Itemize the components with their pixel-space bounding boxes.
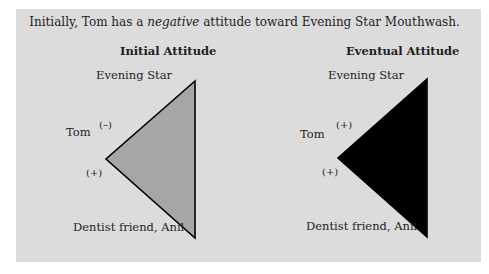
eventual-lower-sign: (+) <box>322 167 338 177</box>
initial-upper-sign: (–) <box>99 120 112 130</box>
initial-tom-label: Tom <box>66 127 91 139</box>
initial-dentist-label: Dentist friend, Anil <box>73 222 184 234</box>
eventual-upper-sign: (+) <box>336 120 352 130</box>
eventual-dentist-label: Dentist friend, Anil <box>306 221 417 233</box>
initial-attitude-header: Initial Attitude <box>120 46 216 58</box>
initial-lower-sign: (+) <box>86 168 102 178</box>
eventual-attitude-header: Eventual Attitude <box>346 46 459 58</box>
eventual-evening-star-label: Evening Star <box>328 70 404 82</box>
initial-attitude-triangle <box>106 81 195 238</box>
initial-evening-star-label: Evening Star <box>96 70 172 82</box>
eventual-attitude-triangle <box>338 79 427 237</box>
eventual-tom-label: Tom <box>300 129 325 141</box>
